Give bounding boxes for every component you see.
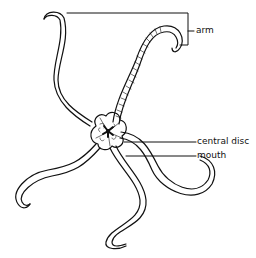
label-arm: arm xyxy=(196,26,214,35)
arm-lower-right xyxy=(106,146,146,249)
arm-bracket xyxy=(67,13,188,45)
arm-lower-left xyxy=(16,144,100,208)
label-central-disc: central disc xyxy=(197,137,249,146)
mouth xyxy=(103,126,113,137)
label-mouth: mouth xyxy=(197,151,226,160)
brittle-star-diagram xyxy=(0,0,256,258)
arm-upper-left xyxy=(44,12,92,126)
arm-upper-right xyxy=(113,26,182,124)
